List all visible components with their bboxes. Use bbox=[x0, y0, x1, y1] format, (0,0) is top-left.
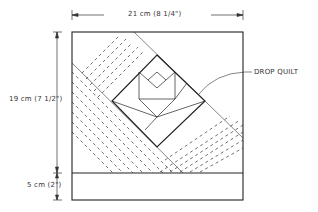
height-label: 19 cm (7 1/2") bbox=[9, 95, 62, 103]
drop-quilt-leader bbox=[198, 72, 252, 95]
width-label: 21 cm (8 1/4") bbox=[128, 10, 181, 18]
drop-label: 5 cm (2") bbox=[27, 181, 62, 189]
rose-block bbox=[112, 55, 205, 147]
drop-quilt-callout: DROP QUILT bbox=[254, 68, 298, 76]
height-dimension bbox=[53, 32, 62, 200]
